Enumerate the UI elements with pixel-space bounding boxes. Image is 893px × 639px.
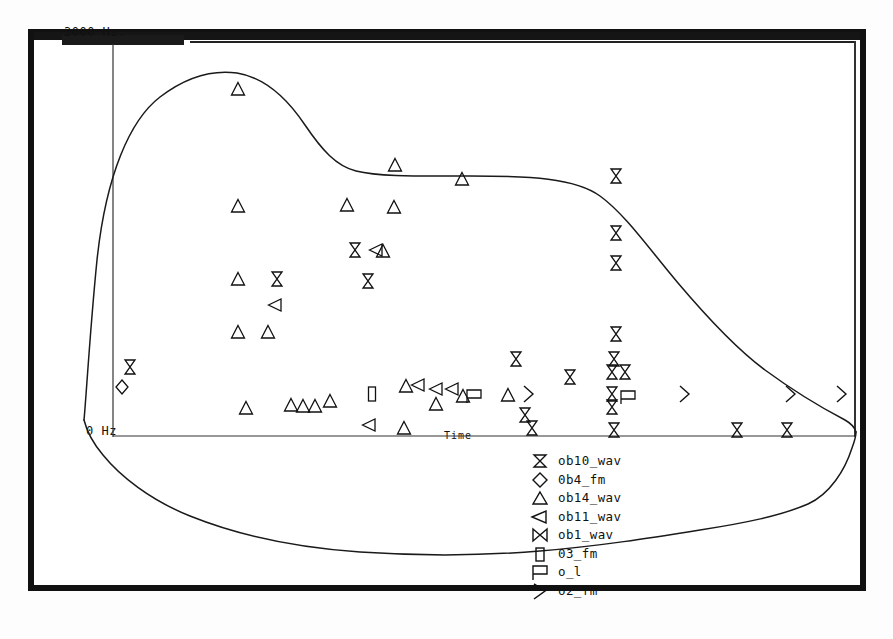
legend-item[interactable]: ob10_wav [528,452,678,471]
figure-root: 3000 Hz. 0 Hz Time [0,0,893,639]
flag-icon [528,563,554,581]
series-o2-fm-markers [524,386,846,402]
legend-item[interactable]: 0b4_fm [528,471,678,490]
legend-item[interactable]: o2_fm [528,582,678,601]
legend-item-label: ob1_wav [558,527,613,542]
legend-item[interactable]: ob1_wav [528,526,678,545]
legend: ob10_wav 0b4_fm ob14_wav ob11_wav ob1_wa… [528,452,678,600]
legend-item-label: ob10_wav [558,453,621,468]
diamond-icon [528,471,554,489]
legend-item-label: 0b4_fm [558,472,606,487]
legend-item-label: o_l [558,564,582,579]
bowtie-vertical-icon [528,452,554,470]
legend-item[interactable]: 03_fm [528,545,678,564]
rectangle-icon [528,545,554,563]
series-03-fm-markers [369,387,376,401]
legend-item-label: ob14_wav [558,490,621,505]
series-0b4-fm-markers [116,380,128,394]
legend-item-label: ob11_wav [558,509,621,524]
plot-canvas [0,0,893,639]
bowtie-horizontal-icon [528,526,554,544]
legend-item[interactable]: o_l [528,563,678,582]
legend-item[interactable]: ob14_wav [528,489,678,508]
envelope-lower-curve [84,420,856,555]
triangle-left-icon [528,508,554,526]
legend-item[interactable]: ob11_wav [528,508,678,527]
envelope-upper-curve [84,72,856,432]
chevron-icon [528,582,554,600]
legend-item-label: o2_fm [558,583,598,598]
triangle-up-icon [528,489,554,507]
axis-lines [113,44,855,437]
legend-item-label: 03_fm [558,546,598,561]
series-ob11-wav-markers [269,244,459,431]
series-ob14-wav-markers [232,83,515,435]
